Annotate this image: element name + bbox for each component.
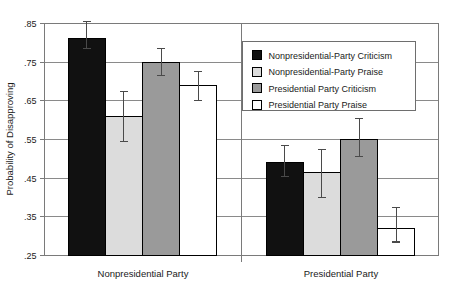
legend-swatch	[253, 100, 262, 109]
y-tick-label: .45	[24, 174, 37, 184]
y-tick-label: .85	[24, 19, 37, 29]
y-tick-label: .55	[24, 135, 37, 145]
bar	[143, 62, 180, 255]
y-tick-label: .35	[24, 212, 37, 222]
y-tick-label: .65	[24, 96, 37, 106]
legend: Nonpresidential-Party CriticismNonpresid…	[243, 42, 416, 111]
legend-label: Presidential Party Praise	[269, 100, 368, 110]
legend-label: Nonpresidential-Party Praise	[269, 67, 384, 77]
y-axis-title-group: Probability of Disapproving	[4, 82, 15, 195]
legend-swatch	[253, 67, 262, 76]
legend-swatch	[253, 84, 262, 93]
bar-chart-figure: .85.75.65.55.45.35.25 Nonpresidential Pa…	[0, 0, 452, 303]
y-tick-label: .75	[24, 58, 37, 68]
category-label: Presidential Party	[304, 268, 379, 279]
legend-label: Presidential Party Criticism	[269, 84, 377, 94]
y-tick-label: .25	[24, 251, 37, 261]
chart-canvas: .85.75.65.55.45.35.25 Nonpresidential Pa…	[0, 0, 452, 303]
bar	[68, 39, 105, 256]
category-label: Nonpresidential Party	[98, 268, 189, 279]
y-axis-title: Probability of Disapproving	[4, 82, 15, 195]
bar	[180, 85, 217, 255]
legend-label: Nonpresidential-Party Criticism	[269, 51, 393, 61]
legend-swatch	[253, 51, 262, 60]
